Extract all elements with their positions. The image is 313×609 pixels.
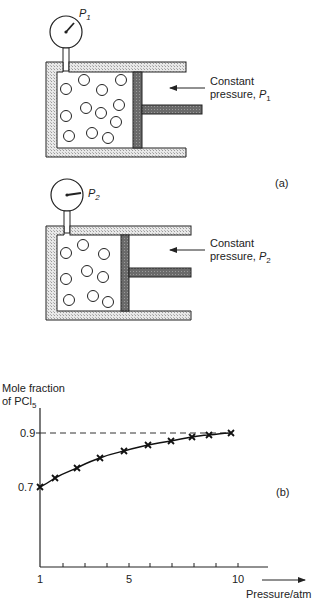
panel-label-b: (b) (276, 486, 289, 498)
gauge-label-p1: P1 (79, 7, 91, 22)
arrow-label-top-line1: Constant (210, 75, 254, 87)
gauge-label-p2: P2 (88, 187, 100, 202)
figure-canvas: P1 Constant pressure, P1 (a) P2 (0, 0, 313, 609)
data-point-markers (37, 430, 234, 490)
x-tick-1: 1 (37, 573, 43, 585)
gas-particles (61, 75, 127, 144)
panel-label-a: (a) (275, 177, 288, 189)
y-tick-0.7: 0.7 (18, 481, 33, 493)
pressure-gauge-icon (51, 179, 83, 233)
cylinder-bottom: P2 Constant pressure, P2 (46, 179, 271, 320)
chart-b: Mole fraction of PCl5 0.9 0.7 1 5 10 Pre… (2, 382, 311, 600)
gas-particles (61, 240, 114, 308)
x-tick-5: 5 (126, 573, 132, 585)
data-curve (40, 433, 231, 487)
y-tick-0.9: 0.9 (20, 427, 35, 439)
cylinder-top: P1 Constant pressure, P1 (46, 7, 271, 157)
y-axis-label-line2: of PCl5 (2, 395, 37, 410)
arrow-label-top-line2: pressure, P1 (210, 88, 271, 103)
arrow-label-bottom-line1: Constant (210, 237, 254, 249)
x-axis-label: Pressure/atm (246, 588, 311, 600)
piston (133, 72, 142, 148)
arrow-label-bottom-line2: pressure, P2 (210, 250, 271, 265)
x-tick-10: 10 (232, 573, 244, 585)
piston (121, 235, 129, 311)
piston-rod (129, 268, 191, 277)
y-axis-label-line1: Mole fraction (2, 382, 65, 394)
piston-rod (142, 105, 202, 114)
